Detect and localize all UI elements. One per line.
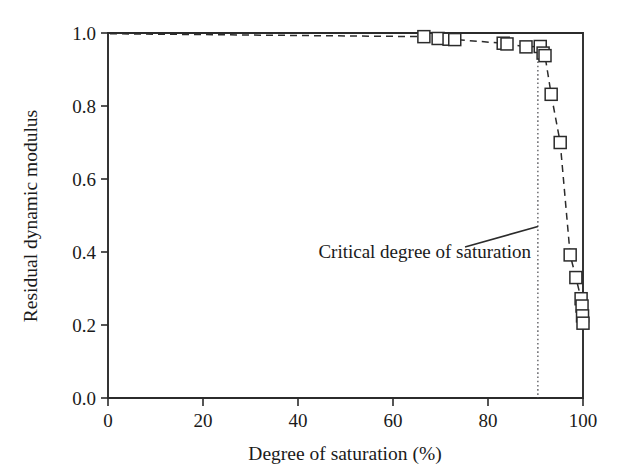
data-point-marker (564, 249, 576, 261)
data-point-marker (577, 317, 589, 329)
chart-canvas: 0.00.20.40.60.81.0 020406080100 Critical… (0, 0, 632, 472)
y-axis-title: Residual dynamic modulus (20, 110, 41, 322)
y-axis-ticks: 0.00.20.40.60.81.0 (72, 23, 108, 409)
y-tick-label: 1.0 (72, 23, 96, 44)
data-point-marker (539, 50, 551, 62)
data-point-marker (570, 272, 582, 284)
data-point-marker (554, 137, 566, 149)
data-point-marker (418, 31, 430, 43)
data-point-marker (501, 38, 513, 50)
x-tick-label: 80 (479, 410, 498, 431)
x-tick-label: 20 (194, 410, 213, 431)
y-tick-label: 0.0 (72, 388, 96, 409)
x-axis-title: Degree of saturation (%) (248, 443, 441, 465)
annotation-critical-saturation: Critical degree of saturation (318, 241, 531, 262)
plot-background (108, 33, 583, 398)
y-tick-label: 0.4 (72, 242, 96, 263)
y-tick-label: 0.2 (72, 315, 96, 336)
x-axis-ticks: 020406080100 (103, 398, 597, 431)
x-tick-label: 0 (103, 410, 113, 431)
y-tick-label: 0.8 (72, 96, 96, 117)
y-tick-label: 0.6 (72, 169, 96, 190)
data-point-marker (545, 88, 557, 100)
data-point-marker (449, 34, 461, 46)
x-tick-label: 60 (384, 410, 403, 431)
chart-figure: 0.00.20.40.60.81.0 020406080100 Critical… (0, 0, 632, 472)
data-point-marker (520, 41, 532, 53)
x-tick-label: 40 (289, 410, 308, 431)
x-tick-label: 100 (569, 410, 598, 431)
